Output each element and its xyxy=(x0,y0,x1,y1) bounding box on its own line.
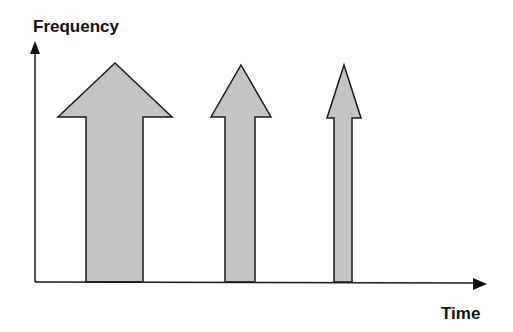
diagram-canvas xyxy=(0,0,513,332)
arrows-group xyxy=(58,63,361,282)
y-axis-arrowhead-icon xyxy=(30,41,40,54)
x-axis xyxy=(35,282,476,283)
arrow-large-icon xyxy=(58,63,172,282)
x-axis-arrowhead-icon xyxy=(473,278,487,290)
arrow-small-icon xyxy=(327,65,361,282)
arrow-medium-icon xyxy=(211,65,271,282)
